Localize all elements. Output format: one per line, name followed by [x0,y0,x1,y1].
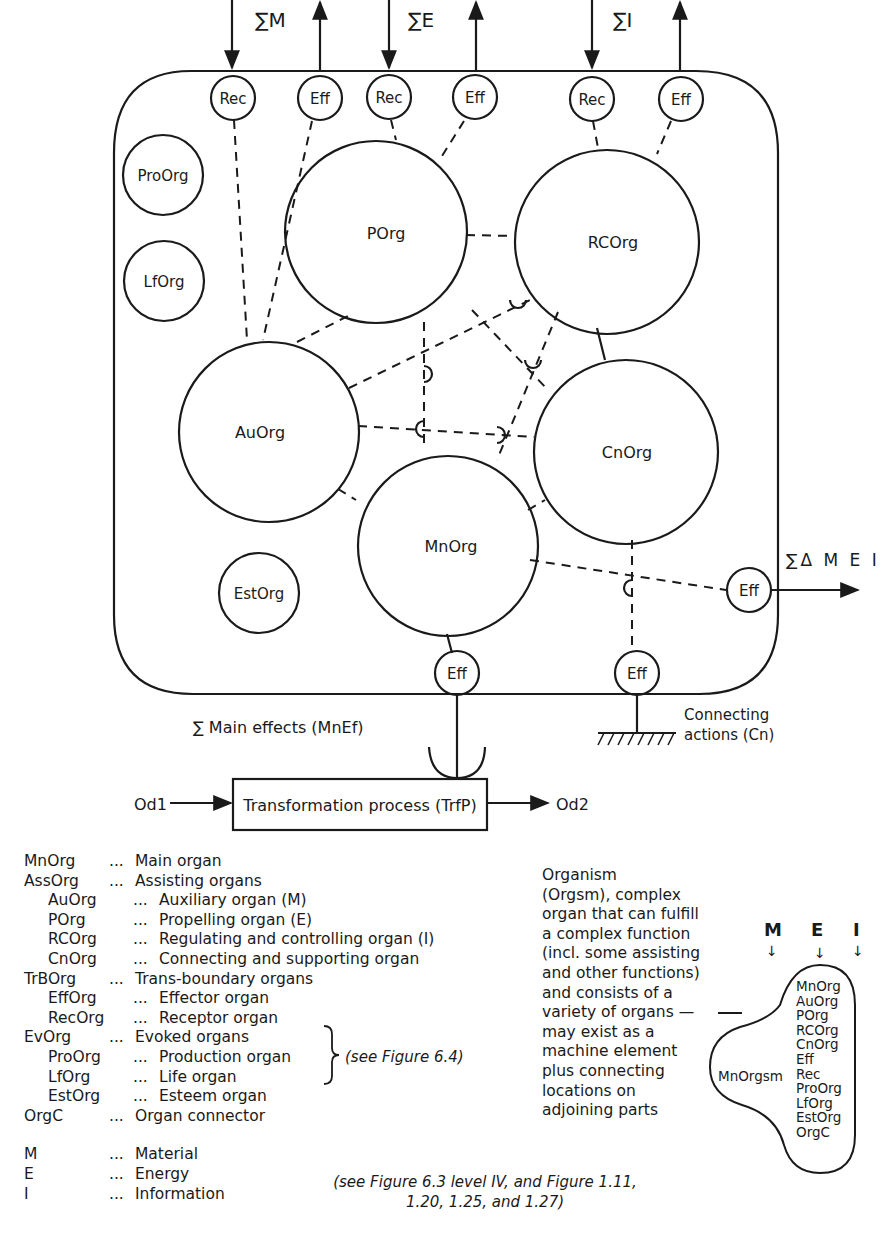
organ-structure-diagram: ∑M ∑E ∑I [0,0,887,860]
effector-connecting: Eff [615,651,659,695]
legend-row: RCOrg...Regulating and controlling organ… [24,930,434,950]
legend-row: MnOrg...Main organ [24,852,434,872]
svg-text:AuOrg: AuOrg [235,423,285,442]
effector-right: Eff [727,568,771,612]
svg-text:Eff: Eff [447,665,467,683]
legend-row: EstOrg...Esteem organ [24,1087,434,1107]
input-label-i: ∑I [613,8,632,32]
legend-row: EffOrg...Effector organ [24,989,434,1009]
input-label-e: ∑E [408,8,434,32]
svg-text:POrg: POrg [367,224,406,243]
svg-text:ProOrg: ProOrg [137,167,188,185]
right-output-label: ∑Δ M E I [786,550,880,570]
svg-text:Rec: Rec [219,90,246,108]
organism-input-i: I [853,919,860,940]
input-arrow-m: ∑M [232,0,286,68]
effector-i: Eff [659,77,703,121]
see-figure-6-3-note: (see Figure 6.3 level IV, and Figure 1.1… [320,1172,650,1212]
svg-text:RCOrg: RCOrg [588,233,639,252]
svg-text:Rec: Rec [375,89,402,107]
legend-row: AuOrg...Auxiliary organ (M) [24,891,434,911]
svg-text:Eff: Eff [465,89,485,107]
effector-e: Eff [453,75,497,119]
see-figure-6-4-note: (see Figure 6.4) [345,1048,464,1066]
svg-text:LfOrg: LfOrg [144,273,185,291]
legend-row: AssOrg...Assisting organs [24,872,434,892]
receptor-e: Rec [367,75,411,119]
organ-est: EstOrg [219,553,299,633]
legend-row: POrg...Propelling organ (E) [24,911,434,931]
svg-text:EstOrg: EstOrg [234,585,284,603]
svg-text:Eff: Eff [739,582,759,600]
effector-main: Eff [435,651,479,695]
connecting-actions-label-2: actions (Cn) [684,726,774,744]
organism-label: MnOrgsm [718,1068,783,1084]
operand-in-label: Od1 [134,795,167,814]
svg-text:Eff: Eff [627,665,647,683]
legend-row: RecOrg...Receptor organ [24,1009,434,1029]
legend-row: CnOrg...Connecting and supporting organ [24,950,434,970]
organ-p: POrg [285,141,467,323]
connecting-actions-label-1: Connecting [684,706,769,724]
legend: MnOrg...Main organ AssOrg...Assisting or… [24,852,434,1204]
svg-text:Rec: Rec [578,91,605,109]
svg-text:MnOrg: MnOrg [425,537,478,556]
legend-row: OrgC...Organ connector [24,1107,434,1127]
main-effects-label: ∑ Main effects (MnEf) [193,718,364,737]
svg-text:CnOrg: CnOrg [602,443,652,462]
receptor-i: Rec [570,77,614,121]
organ-mn: MnOrg [358,456,538,636]
legend-row: LfOrg...Life organ [24,1068,434,1088]
organ-au: AuOrg [179,342,359,522]
organ-cn: CnOrg [534,360,718,544]
organ-pro: ProOrg [123,135,203,215]
legend-row: TrBOrg...Trans-boundary organs [24,970,434,990]
dash-line [718,1010,744,1016]
brace-icon [322,1024,342,1086]
ground-hatch-icon [598,733,674,745]
effector-m: Eff [298,76,342,120]
legend-row: EvOrg...Evoked organs [24,1028,434,1048]
svg-text:Eff: Eff [671,91,691,109]
input-arrow-e: ∑E [389,0,434,68]
organ-rc: RCOrg [515,150,699,334]
organism-members: MnOrg AuOrg POrg RCOrg CnOrg Eff Rec Pro… [796,979,842,1140]
transformation-process-label: Transformation process (TrfP) [242,796,476,815]
legend-row: M...Material [24,1145,434,1165]
operand-out-label: Od2 [556,795,589,814]
organ-connectors [234,120,726,653]
receptor-m: Rec [211,76,255,120]
organ-lf: LfOrg [124,241,204,321]
organism-input-m: M [764,919,782,940]
input-arrow-i: ∑I [592,0,632,68]
organism-input-e: E [811,919,823,940]
input-label-m: ∑M [255,8,286,32]
svg-text:Eff: Eff [310,90,330,108]
legend-spacer [24,1126,434,1145]
system-boundary [114,71,778,694]
